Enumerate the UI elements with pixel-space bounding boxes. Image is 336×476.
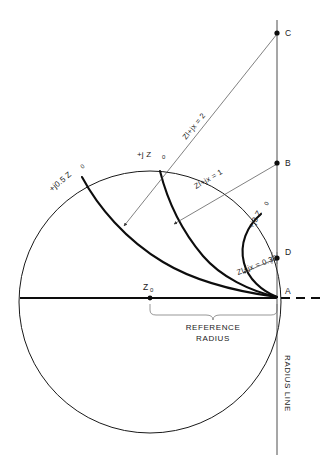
reference-radius-caption-line1: REFERENCE [186, 323, 241, 332]
point-c-label: C [285, 28, 291, 38]
reactance-arc-j05 [82, 177, 277, 297]
arc-label-j05: +j0.5 Z [48, 170, 74, 194]
smith-chart-diagram: C B D A Z 0 +j0.5 Z 0 +j Z 0 +j3 Z 0 Zl+… [0, 0, 336, 476]
arc-label-j1-group: +j Z 0 [137, 150, 166, 160]
construction-line-eq2 [124, 34, 277, 226]
z0-label: Z [143, 282, 148, 292]
z0-label-group: Z 0 [143, 282, 154, 293]
reference-circle [19, 171, 281, 433]
arc-label-j05-group: +j0.5 Z 0 [48, 160, 87, 195]
reference-radius-brace [150, 304, 277, 320]
point-b-dot [274, 160, 279, 165]
arc-label-j1-subscript: 0 [162, 154, 166, 160]
arc-label-j1: +j Z [137, 150, 151, 159]
arc-label-j3-subscript: 0 [263, 200, 270, 206]
point-b-label: B [285, 158, 291, 168]
point-z0-dot [148, 296, 153, 301]
point-a-label: A [285, 286, 291, 296]
arc-label-j05-subscript: 0 [79, 163, 86, 170]
point-c-dot [274, 30, 279, 35]
reference-radius-caption-line2: RADIUS [196, 334, 230, 343]
z0-subscript: 0 [150, 287, 154, 293]
figure-canvas: C B D A Z 0 +j0.5 Z 0 +j Z 0 +j3 Z 0 Zl+… [0, 0, 336, 476]
equation-label-1: Zl+jx = 1 [193, 167, 225, 191]
arc-label-j3: +j3 Z [247, 209, 264, 230]
arc-label-j3-group: +j3 Z 0 [247, 198, 270, 230]
radius-line-caption: RADIUS LINE [283, 355, 292, 412]
point-d-label: D [285, 247, 291, 257]
